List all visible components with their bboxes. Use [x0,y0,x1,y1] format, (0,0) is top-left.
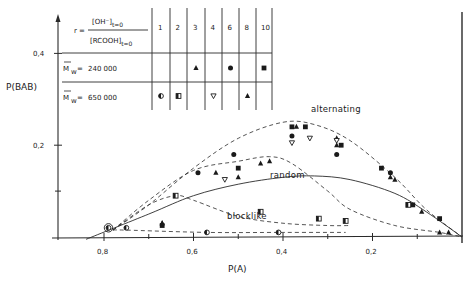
legend-marker-triangle [245,93,250,98]
data-point [334,152,339,157]
row-650000: M w = 650 000 [63,91,117,105]
data-point [124,225,129,230]
svg-text:M: M [63,94,69,102]
label-blocklike: blocklike [227,211,267,221]
legend-marker-half-circle [159,94,164,99]
y-tick-label: 0,2 [33,142,44,150]
legend-marker-circle [228,66,233,71]
data-point [339,143,344,148]
x-tick-label: 0,2 [366,248,377,256]
x-axis-label: P(A) [228,264,247,274]
data-point [307,136,312,141]
r-value: 8 [245,24,249,32]
svg-text:=: = [77,94,83,102]
x-tick-label: 0,4 [276,248,288,256]
svg-text:=: = [77,65,83,73]
y-tick-label: 0,4 [33,50,45,58]
data-point [236,174,241,179]
r-numerator: [OH⁻]t=0 [92,18,123,28]
data-point [106,225,111,230]
data-point [222,178,227,183]
label-alternating: alternating [311,104,361,114]
data-point [446,229,451,234]
r-value: 3 [193,24,197,32]
data-point [267,158,272,163]
r-value: 6 [228,24,233,32]
svg-text:M: M [63,65,69,73]
data-point [276,230,281,235]
data-point [406,202,411,207]
data-point [303,124,308,129]
data-point [231,152,236,157]
legend-table: r = [OH⁻]t=0 [RCOOH]t=0 12346810 M w = 2… [62,8,272,110]
row-240000: M w = 240 000 [63,62,117,76]
r-value: 10 [261,24,270,32]
curve-intermediate-1 [113,157,462,237]
data-point [213,170,218,175]
mw-value-2: 650 000 [88,94,117,102]
x-tick-label: 0,6 [187,248,199,256]
curves [86,121,462,239]
data-point [258,161,263,166]
data-point [236,166,241,171]
r-value: 1 [158,24,162,32]
data-point [195,170,200,175]
y-axis-arrow [56,14,61,22]
data-point [379,166,384,171]
data-point [316,216,321,221]
data-point [343,219,348,224]
legend-marker-triangle [193,65,198,70]
data-point [294,124,299,129]
data-point [205,230,210,235]
r-value: 2 [176,24,180,32]
legend-marker-square [262,66,267,71]
mw-value-1: 240 000 [88,65,117,73]
label-random: random [270,170,305,180]
x-axis [52,236,463,238]
legend-marker-half-square [176,94,181,99]
data-point [173,193,178,198]
y-axis-label: P(BAB) [6,82,37,92]
r-values: 12346810 [158,24,270,32]
legend-marker-triangle-down [211,94,216,99]
data-point [334,142,339,147]
r-value: 4 [211,24,216,32]
data-point [392,177,397,182]
r-denominator: [RCOOH]t=0 [90,37,133,47]
chart: 0,80,60,40,20,40,2 P(BAB) P(A) r = [OH⁻]… [0,0,475,283]
r-label: r = [74,27,85,35]
x-tick-label: 0,8 [97,248,108,256]
data-point [160,220,165,225]
data-point [437,216,442,221]
data-point [388,174,393,179]
data-point [289,141,294,146]
data-point [289,134,294,139]
data-point [290,124,295,129]
axes [52,12,463,243]
curve-blocklike [113,230,346,233]
